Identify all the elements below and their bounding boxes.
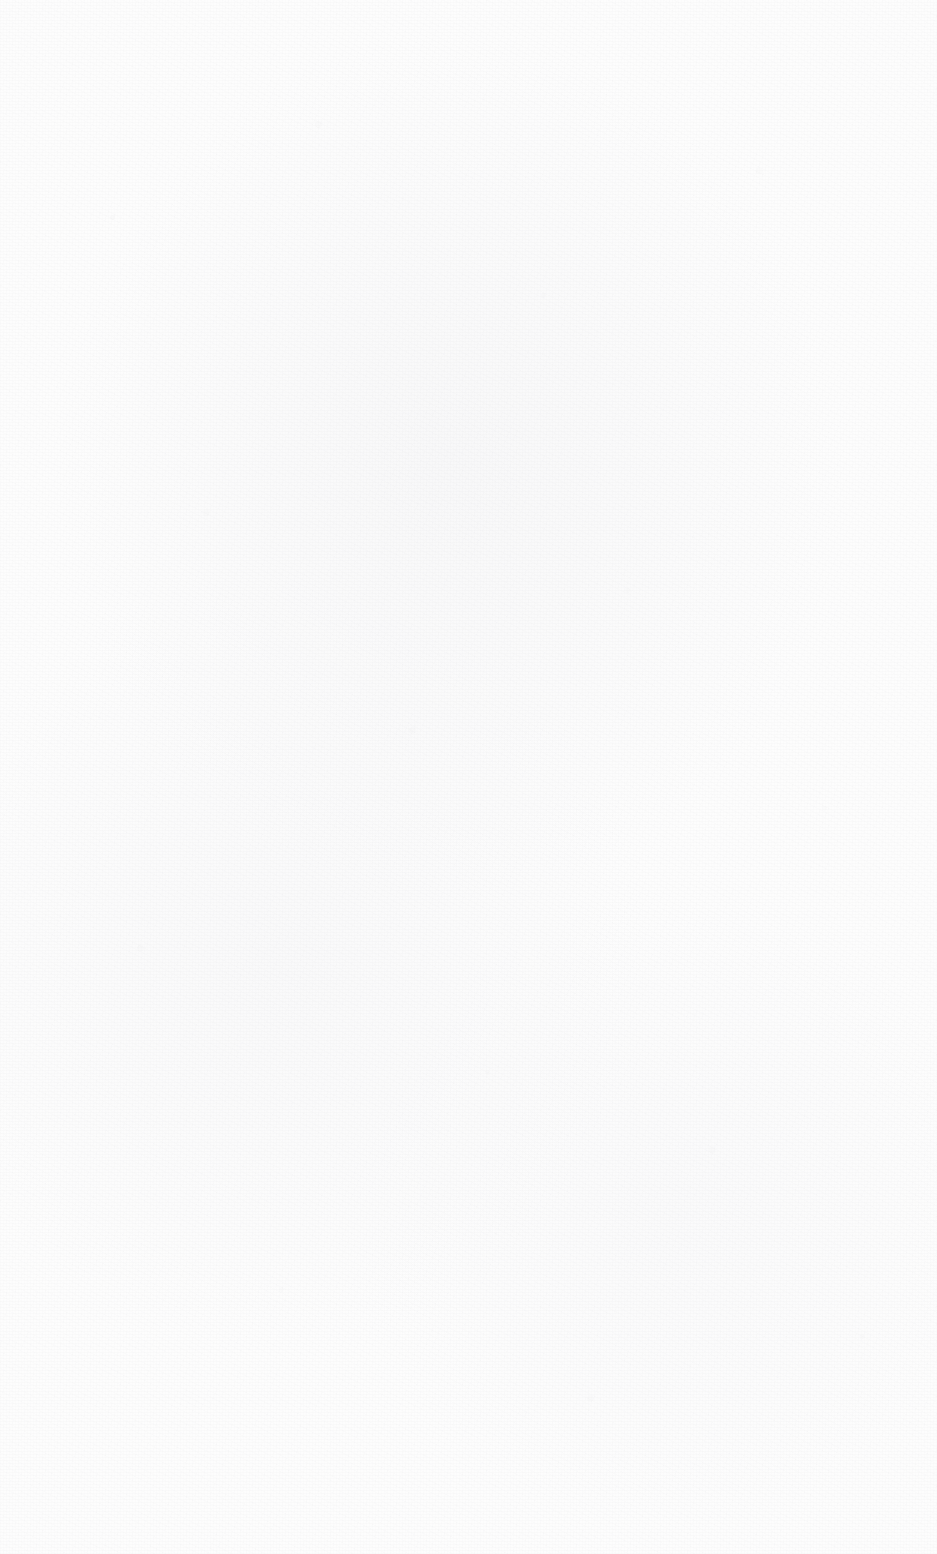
dust-speckle-layer [0,0,937,1554]
scanned-page [0,0,937,1554]
paper-grain-texture [0,0,937,1554]
paper-mottle-texture [0,0,937,1554]
